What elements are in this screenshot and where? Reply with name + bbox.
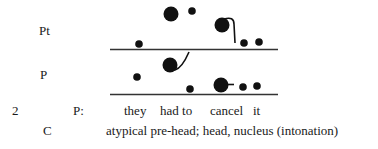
nucleus-dot	[215, 18, 230, 33]
example-number: 2	[12, 104, 19, 117]
unstressed-syllable-dot	[255, 38, 263, 46]
word-it: it	[253, 104, 260, 117]
unstressed-syllable-dot	[240, 39, 248, 47]
p-contour	[110, 52, 278, 95]
pt-contour	[110, 7, 278, 50]
unstressed-syllable-dot	[186, 85, 194, 93]
speaker-label: P:	[73, 104, 84, 117]
stressed-syllable-dot	[164, 7, 179, 22]
word-they: they	[124, 104, 146, 117]
code-label: C	[43, 124, 52, 137]
unstressed-syllable-dot	[253, 82, 261, 90]
word-had-to: had to	[160, 104, 192, 117]
unstressed-syllable-dot	[239, 83, 247, 91]
code-description: atypical pre-head; head, nucleus (intona…	[106, 124, 338, 137]
unstressed-syllable-dot	[135, 40, 143, 48]
word-cancel: cancel	[210, 104, 243, 117]
unstressed-syllable-dot	[188, 7, 196, 15]
unstressed-syllable-dot	[133, 73, 141, 81]
